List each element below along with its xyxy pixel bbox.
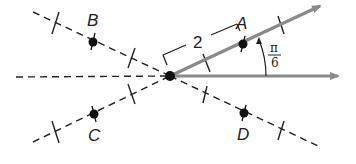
angle-numerator: π	[270, 41, 278, 55]
tick-mark	[52, 121, 59, 143]
distance-label: 2	[193, 33, 202, 52]
dashed-line-c	[33, 76, 170, 142]
label-c: C	[88, 126, 101, 145]
tick-mark	[203, 86, 207, 103]
angle-arc	[259, 40, 266, 76]
tick-mark	[128, 48, 135, 68]
diagram-canvas: 2 π 6 A B C D	[0, 0, 356, 164]
label-b: B	[87, 11, 98, 30]
dashed-line-horizontal	[16, 76, 170, 77]
origin-point	[165, 71, 175, 81]
angle-label: π 6	[268, 41, 281, 70]
label-d: D	[237, 125, 249, 144]
tick-mark	[278, 121, 284, 140]
label-a: A	[235, 14, 247, 33]
dashed-line-b	[33, 12, 170, 76]
angle-denominator: 6	[271, 56, 279, 70]
angle-arc-arrowhead-icon	[256, 37, 262, 44]
